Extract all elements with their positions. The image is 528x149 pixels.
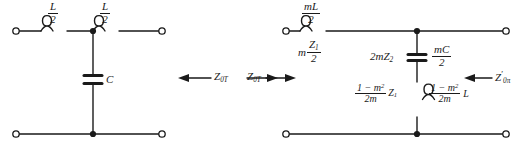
junction-dot-top-right-circuit — [414, 28, 420, 34]
terminal-right-bottom — [503, 131, 509, 137]
label-z0t-right-text: Z0T — [247, 71, 261, 84]
capacitor-C — [84, 76, 102, 84]
label-series-inductor-mL-over-2: mL 2 — [302, 2, 320, 25]
label-shunt-inductor-impedance-Z1: 1 − m2 2m Z1 — [355, 83, 397, 104]
terminal-left-top — [13, 28, 19, 34]
label-series-inductor-right: L 2 — [100, 2, 110, 25]
label-series-impedance-mZ1-over-2: m Z1 2 — [298, 40, 321, 65]
label-shunt-capacitor-C: C — [106, 74, 113, 85]
label-z0t-left: Z0T — [214, 71, 228, 84]
terminal-left-circuit-right-bottom — [159, 131, 165, 137]
terminal-left-circuit-right-top — [159, 28, 165, 34]
junction-dot-bottom-right-circuit — [414, 131, 420, 137]
junction-dot-bottom-left-circuit — [90, 131, 96, 137]
arrow-z0pi-output — [464, 74, 492, 82]
capacitor-mC-over-2 — [408, 55, 426, 61]
arrow-input-right-circuit — [266, 74, 296, 82]
junction-dot-top-left-circuit — [90, 28, 96, 34]
label-shunt-capacitor-2mZ2: 2mZ2 — [370, 51, 393, 64]
label-shunt-inductor-L: 1 − m2 2m L — [429, 83, 469, 104]
label-output-impedance-z0pi: Z′0π — [495, 70, 510, 85]
circuit-schematic-canvas — [0, 0, 528, 149]
label-shunt-capacitor-mC-over-2: mC 2 — [432, 45, 451, 68]
terminal-right-top — [503, 28, 509, 34]
terminal-right-circuit-left-top — [283, 28, 289, 34]
label-series-inductor-left: L 2 — [48, 2, 58, 25]
terminal-left-bottom — [13, 131, 19, 137]
arrow-z0t-left — [178, 74, 211, 82]
circuit-diagram: L 2 L 2 C Z0T . Z0T mL 2 m Z1 — [0, 0, 528, 149]
terminal-right-circuit-left-bottom — [283, 131, 289, 137]
label-z0t-right: . — [227, 71, 230, 82]
